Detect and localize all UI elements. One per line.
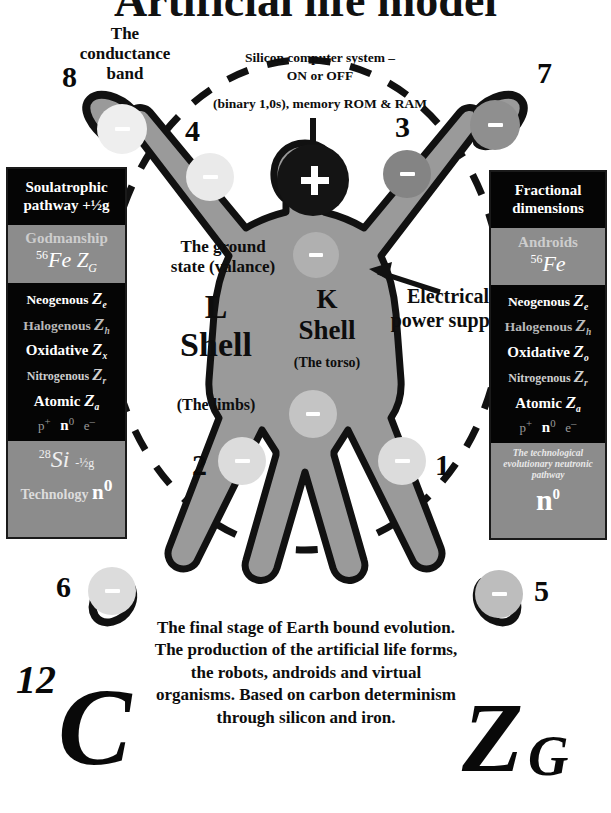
zg-subscript: G [528,728,568,784]
left-box-particles: p+ n0 e– [8,414,125,437]
zg-symbol: Z [462,688,523,788]
left-box-footer-isotope: 28Si -½g [8,443,125,473]
electron-7-label: 7 [537,58,552,88]
right-box-row-atomic: Atomic Za [491,391,605,416]
electron-7 [470,100,520,150]
right-box-particles: p+ n0 e– [491,416,605,439]
right-box-subsection: Androids 56Fe [491,228,605,285]
right-box-footer-caption: The technological evolutionary neutronic… [491,443,605,483]
left-box-row-neogenous: Neogenous Ze [8,287,125,312]
nucleus-plus-sign [295,160,333,200]
right-box-header: Fractional dimensions [491,172,605,228]
left-box-row-nitrogenous: Nitrogenous Zr [8,363,125,388]
silicon-system-line3: (binary 1,0s), memory ROM & RAM [185,96,455,112]
ground-state-label: The ground state (valance) [140,237,306,277]
l-shell-label: L Shell [146,288,286,364]
left-box-subtitle: Godmanship [8,227,125,247]
right-box-row-nitrogenous: Nitrogenous Zr [491,365,605,390]
page-title: Artificial life model [0,0,611,27]
electron-k-lower [289,390,337,438]
electron-3-label: 3 [395,112,410,142]
electron-8 [97,104,147,154]
bottom-paragraph: The final stage of Earth bound evolution… [150,617,462,729]
left-box-row-oxidative: Oxidative Zx [8,338,125,363]
left-box-footer-technology: Technology n0 [8,473,125,509]
electron-3 [383,150,431,198]
right-box-isotope-mass: 56 [530,252,542,266]
k-shell-sublabel: (The torso) [278,355,376,372]
left-box-row-halogenous: Halogenous Zh [8,313,125,338]
left-box-isotope: 56Fe ZG [8,247,125,279]
right-box-subtitle: Androids [491,231,605,251]
electron-2 [218,437,266,485]
left-info-box: Soulatrophic pathway +½g Godmanship 56Fe… [6,167,127,539]
right-box-row-halogenous: Halogenous Zh [491,314,605,339]
left-box-footer: 28Si -½g Technology n0 [8,441,125,509]
electron-5 [475,570,523,618]
electron-6-label: 6 [56,572,71,602]
right-box-isotope-symbol: Fe [542,251,565,276]
carbon-symbol: C [58,672,131,782]
power-supply-arrow-head [369,262,392,280]
left-box-isotope-symbol: Fe [48,247,71,272]
l-shell-sublabel: (The limbs) [146,396,286,415]
right-box-row-neogenous: Neogenous Ze [491,289,605,314]
artificial-life-model-diagram: Artificial life model 8 [0,0,611,813]
electron-1-label: 1 [435,450,450,480]
left-box-row-atomic: Atomic Za [8,389,125,414]
k-shell-label: K Shell [282,284,372,346]
silicon-system-line2: ON or OFF [205,68,435,84]
electron-5-label: 5 [534,576,549,606]
right-box-footer: The technological evolutionary neutronic… [491,443,605,521]
left-box-isotope-mass: 56 [36,248,48,262]
right-box-isotope: 56Fe [491,251,605,280]
left-box-isotope-z: ZG [77,248,97,272]
carbon-mass-number: 12 [16,660,56,700]
right-box-rows: Neogenous Ze Halogenous Zh Oxidative Zo … [491,285,605,443]
silicon-system-line1: Silicon computer system – [205,50,435,66]
electron-4 [186,153,234,201]
right-info-box: Fractional dimensions Androids 56Fe Neog… [489,170,607,540]
conductance-band-label: The conductance band [55,24,195,84]
electron-2-label: 2 [192,450,207,480]
left-box-rows: Neogenous Ze Halogenous Zh Oxidative Zx … [8,283,125,441]
electron-6 [88,567,136,615]
right-box-row-oxidative: Oxidative Zo [491,340,605,365]
left-box-subsection: Godmanship 56Fe ZG [8,225,125,283]
electron-4-label: 4 [185,116,200,146]
electron-1 [378,437,426,485]
right-box-footer-n0: n0 [491,483,605,521]
left-box-header: Soulatrophic pathway +½g [8,169,125,225]
